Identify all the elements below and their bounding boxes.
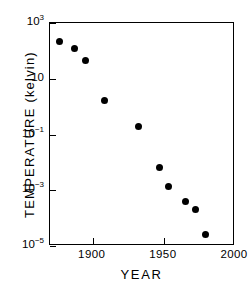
x-axis-title: YEAR <box>49 268 234 281</box>
y-tick-mark <box>50 190 56 191</box>
temperature-vs-year-chart: 1031010−110−310−5 190019502000 YEAR TEMP… <box>0 0 250 299</box>
data-point <box>165 183 172 190</box>
x-tick-label: 1900 <box>67 249 117 261</box>
x-tick-mark <box>93 238 94 244</box>
plot-frame <box>49 22 234 245</box>
data-point <box>56 38 63 45</box>
y-tick-mark <box>50 23 56 24</box>
data-point <box>101 97 108 104</box>
data-point <box>82 57 89 64</box>
y-tick-mark <box>50 135 56 136</box>
data-point <box>182 198 189 205</box>
data-point <box>156 164 163 171</box>
x-tick-mark <box>164 238 165 244</box>
data-point <box>135 123 142 130</box>
y-tick-label: 103 <box>0 16 44 28</box>
x-tick-label: 1950 <box>138 249 188 261</box>
data-point <box>202 231 209 238</box>
data-point <box>192 206 199 213</box>
x-tick-label: 2000 <box>209 249 250 261</box>
y-tick-mark <box>50 246 56 247</box>
y-axis-title: TEMPERATURE (kelvin) <box>23 30 36 240</box>
y-tick-mark <box>50 79 56 80</box>
y-tick-label: 10−5 <box>0 239 44 251</box>
data-point <box>71 45 78 52</box>
